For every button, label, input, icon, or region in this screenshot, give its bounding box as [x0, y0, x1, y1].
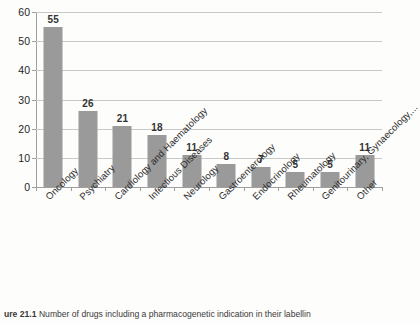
x-axis-category-label: Gastroenterology [216, 142, 276, 202]
x-axis-category-label: Psychiatry [78, 163, 117, 202]
x-axis-category-label: Neurology [182, 163, 221, 202]
x-axis-category-label: Other [355, 178, 379, 202]
x-axis-category-label: Oncology [43, 166, 79, 202]
figure-number: ure 21.1 [4, 309, 37, 319]
x-axis-category-label: Infectious Diseases [147, 135, 214, 202]
figure-caption-text: Number of drugs including a pharmacogene… [39, 309, 311, 319]
figure-caption: ure 21.1 Number of drugs including a pha… [4, 309, 400, 320]
